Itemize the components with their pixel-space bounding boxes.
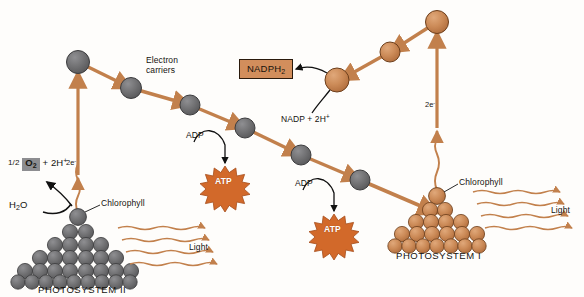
chlorophyll-leader-psi: [444, 184, 458, 192]
psii-sphere-row-1: [62, 224, 93, 239]
photosystem-ii-antenna-complex: [11, 209, 139, 290]
chlorophyll-sphere-psii: [70, 209, 87, 226]
water-splitting-arrow: [43, 182, 72, 214]
diagram-canvas: [0, 0, 584, 297]
atp-starburst-2: [309, 214, 359, 260]
electron-carrier-psi-2: [380, 42, 400, 62]
electron-carriers-label: Electron carriers: [146, 56, 178, 76]
electron-label-psii: 2e-: [66, 158, 76, 167]
ferredoxin-circle: [325, 68, 349, 92]
adp-label-2: ADP: [295, 179, 313, 189]
atp-starburst-1: [200, 166, 250, 212]
chlorophyll-label-psii: Chlorophyll: [101, 199, 145, 209]
chlorophyll-label-psi: Chlorophyll: [459, 178, 503, 188]
nadph-reaction-arrows: [296, 67, 330, 113]
electron-label-psi: 2e-: [425, 100, 435, 109]
chlorophyll-sphere-psi: [429, 188, 446, 205]
nadph2-box: NADPH2: [239, 59, 293, 79]
photosystem-i-label: PHOTOSYSTEM I: [396, 251, 481, 262]
electron-carrier-psi-1: [426, 11, 449, 34]
photosystem-ii-label: PHOTOSYSTEM II: [38, 285, 126, 296]
psii-sphere-row-3: [32, 250, 123, 265]
oxygen-release-label: 1/2 O2 + 2H+: [8, 157, 67, 171]
electron-carrier-1: [67, 51, 90, 74]
light-label-psi: Light: [551, 206, 570, 216]
water-input-label: H2O: [9, 200, 27, 212]
electron-carrier-2: [121, 78, 142, 99]
chlorophyll-leader-psii: [85, 205, 100, 212]
light-label-psii: Light: [189, 243, 208, 253]
photosynthesis-z-scheme-diagram: Electron carriers NADPH2 NADP + 2H+ ADP …: [0, 0, 584, 297]
electron-carrier-3: [180, 95, 200, 115]
electron-carrier-6: [350, 170, 370, 190]
nadp-input-label: NADP + 2H+: [281, 113, 330, 124]
photon-wavy-path-psi: [435, 131, 439, 190]
electron-carrier-4: [235, 118, 255, 138]
electron-carrier-circles-orange: [325, 11, 449, 93]
electron-carrier-5: [291, 145, 311, 165]
adp-label-1: ADP: [186, 131, 204, 141]
